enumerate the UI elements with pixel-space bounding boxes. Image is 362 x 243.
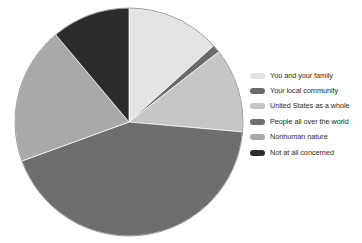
pie-slice-group xyxy=(15,8,243,236)
legend-swatch-icon xyxy=(250,88,265,94)
legend-item-people-all-over-the-world[interactable]: People all over the world xyxy=(250,114,362,129)
legend-swatch-icon xyxy=(250,134,265,140)
legend-item-your-local-community[interactable]: Your local community xyxy=(250,83,362,98)
legend-swatch-icon xyxy=(250,73,265,79)
pie-chart-svg xyxy=(0,0,248,243)
legend-swatch-icon xyxy=(250,119,265,125)
legend-item-you-and-your-family[interactable]: You and your family xyxy=(250,68,362,83)
legend-label: You and your family xyxy=(270,72,333,80)
chart-legend: You and your family Your local community… xyxy=(250,68,362,160)
pie-chart-figure: You and your family Your local community… xyxy=(0,0,362,243)
legend-label: Nonhuman nature xyxy=(270,133,328,141)
legend-swatch-icon xyxy=(250,150,265,156)
legend-item-united-states-as-a-whole[interactable]: United States as a whole xyxy=(250,99,362,114)
pie-chart-plot-area xyxy=(0,0,248,243)
legend-item-nonhuman-nature[interactable]: Nonhuman nature xyxy=(250,130,362,145)
legend-swatch-icon xyxy=(250,103,265,109)
legend-item-not-at-all-concerned[interactable]: Not at all concerned xyxy=(250,145,362,160)
legend-label: United States as a whole xyxy=(270,102,350,110)
legend-label: Your local community xyxy=(270,87,338,95)
legend-label: People all over the world xyxy=(270,118,349,126)
legend-label: Not at all concerned xyxy=(270,149,334,157)
